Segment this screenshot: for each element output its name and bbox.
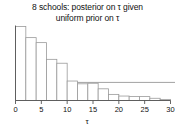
- x-tick-label: 15: [89, 105, 97, 114]
- histogram-bar: [67, 81, 77, 100]
- x-tick-label: 30: [166, 105, 174, 114]
- figure: 8 schools: posterior on τ given uniform …: [0, 0, 175, 127]
- histogram-bar: [109, 94, 119, 100]
- histogram-bar: [78, 84, 88, 101]
- x-tick-label: 20: [115, 105, 123, 114]
- histogram-bar: [88, 83, 98, 100]
- histogram-svg: 051015202530 τ: [0, 0, 175, 127]
- histogram-bar: [47, 59, 57, 100]
- histogram-bar: [57, 63, 67, 100]
- plot-area: 051015202530 τ: [0, 0, 175, 127]
- histogram-bar: [36, 43, 46, 101]
- histogram-bar: [26, 38, 36, 101]
- histogram-bars: [16, 27, 171, 101]
- histogram-bar: [98, 89, 108, 101]
- x-tick-label: 10: [63, 105, 71, 114]
- x-axis-label: τ: [85, 117, 89, 126]
- histogram-bar: [119, 96, 129, 100]
- x-tick-label: 5: [39, 105, 43, 114]
- histogram-bar: [16, 27, 26, 101]
- histogram-bar: [129, 97, 139, 101]
- x-axis-ticks: [16, 101, 171, 105]
- x-tick-label: 0: [13, 105, 17, 114]
- histogram-bar: [140, 97, 150, 101]
- x-tick-label: 25: [140, 105, 148, 114]
- x-axis-tick-labels: 051015202530: [13, 105, 174, 114]
